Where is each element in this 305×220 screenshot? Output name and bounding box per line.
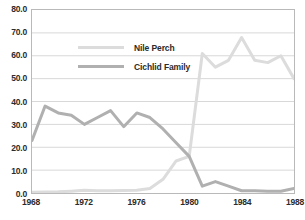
x-axis-tick-label: 1976 (117, 198, 157, 207)
y-axis-tick-label: 80.0 (0, 5, 27, 14)
legend-swatch-icon (78, 46, 124, 49)
x-axis-tick-label: 1980 (169, 198, 209, 207)
legend-label: Nile Perch (134, 43, 175, 53)
legend-item[interactable]: Nile Perch (78, 38, 208, 57)
y-axis-tick-label: 60.0 (0, 51, 27, 60)
x-axis-tick-label: 1972 (64, 198, 104, 207)
y-axis-tick-label: 10.0 (0, 167, 27, 176)
x-axis-tick-label: 1968 (11, 198, 51, 207)
legend-swatch-icon (78, 65, 124, 68)
line-chart: 0.010.020.030.040.050.060.070.080.0 1968… (0, 0, 305, 220)
legend-label: Cichlid Family (134, 62, 190, 72)
y-axis-tick-label: 30.0 (0, 121, 27, 130)
chart-legend: Nile PerchCichlid Family (78, 38, 208, 76)
x-axis-tick-label: 1988 (275, 198, 305, 207)
y-axis-tick-label: 50.0 (0, 74, 27, 83)
y-axis-tick-label: 20.0 (0, 144, 27, 153)
x-axis-tick-label: 1984 (222, 198, 262, 207)
plot-area (31, 9, 295, 194)
y-axis-tick-label: 70.0 (0, 28, 27, 37)
legend-item[interactable]: Cichlid Family (78, 57, 208, 76)
y-axis-tick-label: 40.0 (0, 98, 27, 107)
